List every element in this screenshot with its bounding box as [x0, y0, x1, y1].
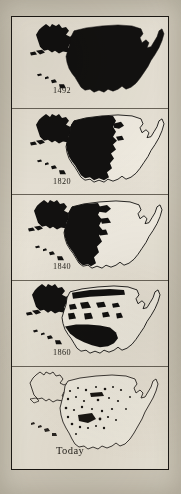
year-label-1820: 1820: [53, 177, 71, 186]
contiguous-us-1492: [66, 25, 164, 92]
contiguous-us-outline-today: [60, 375, 158, 449]
map-svg-1492: [12, 17, 168, 108]
figure-frame: 1492: [11, 16, 169, 470]
land-loss-figure: 1492: [0, 0, 181, 494]
year-label-1840: 1840: [53, 262, 71, 271]
year-label-1492: 1492: [53, 86, 71, 95]
map-panel-1860: 1860: [12, 281, 168, 367]
map-svg-1820: [12, 109, 168, 194]
map-svg-1860: [12, 281, 168, 366]
hawaii-1860: [33, 329, 62, 344]
hawaii-1820: [37, 159, 66, 174]
map-panel-1492: 1492: [12, 17, 168, 109]
map-svg-today: [12, 367, 168, 469]
map-panel-today: Today: [12, 367, 168, 469]
map-svg-1840: [12, 195, 168, 280]
hawaii-1840: [35, 245, 64, 260]
map-panel-1840: 1840: [12, 195, 168, 281]
map-panel-1820: 1820: [12, 109, 168, 195]
year-label-1860: 1860: [53, 348, 71, 357]
today-label: Today: [56, 445, 84, 456]
hawaii-today: [31, 422, 57, 436]
